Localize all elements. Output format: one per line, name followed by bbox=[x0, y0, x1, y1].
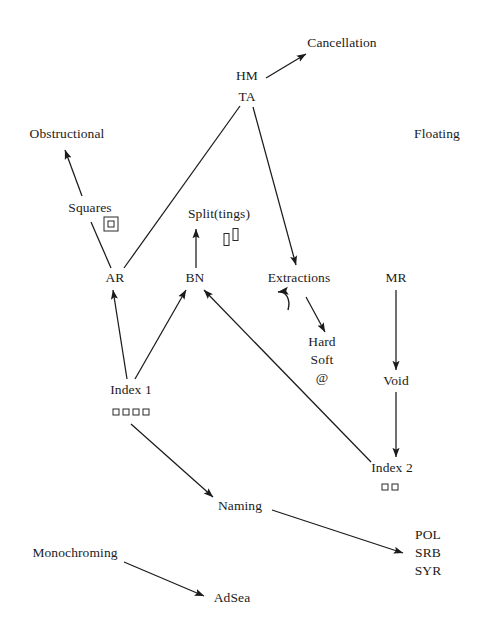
square-inner-icon bbox=[108, 221, 115, 228]
bar-icon bbox=[233, 228, 239, 241]
square-icon bbox=[113, 409, 120, 416]
square-icon bbox=[133, 409, 140, 416]
node-hard-soft-at[interactable]: HardSoft@ bbox=[308, 333, 335, 386]
diagram-canvas: Cancellation HM TA Obstructional Floatin… bbox=[0, 0, 484, 627]
node-hm[interactable]: HM bbox=[236, 67, 258, 85]
node-index1[interactable]: Index 1 bbox=[110, 381, 152, 399]
node-obstructional[interactable]: Obstructional bbox=[30, 125, 105, 143]
bar-pair-icon bbox=[224, 228, 239, 246]
node-label-line: @ bbox=[308, 369, 335, 387]
node-bn[interactable]: BN bbox=[186, 269, 205, 287]
edge-extractions-hardsoft bbox=[306, 297, 325, 332]
node-squares[interactable]: Squares bbox=[68, 199, 111, 217]
nested-square-icon bbox=[104, 217, 119, 232]
edge-index1-naming bbox=[131, 424, 213, 497]
square-icon bbox=[392, 484, 399, 491]
index1-squares-icon bbox=[113, 409, 150, 416]
node-naming[interactable]: Naming bbox=[218, 497, 262, 515]
edge-squares-obstructional bbox=[65, 150, 82, 196]
square-icon bbox=[143, 409, 150, 416]
square-icon bbox=[382, 484, 389, 491]
node-cancellation[interactable]: Cancellation bbox=[307, 34, 376, 52]
node-ta[interactable]: TA bbox=[238, 88, 255, 106]
node-index2[interactable]: Index 2 bbox=[371, 459, 413, 477]
node-void[interactable]: Void bbox=[383, 372, 409, 390]
node-label-line: POL bbox=[415, 526, 442, 544]
node-label-line: Soft bbox=[308, 351, 335, 369]
edge-ta-extractions bbox=[253, 107, 296, 265]
node-monochroming[interactable]: Monochroming bbox=[32, 544, 117, 562]
node-floating[interactable]: Floating bbox=[414, 125, 460, 143]
edge-index1-bn bbox=[135, 290, 186, 379]
edge-index2-bn bbox=[204, 290, 371, 462]
node-label-line: Hard bbox=[308, 333, 335, 351]
square-outer-icon bbox=[104, 217, 119, 232]
node-mr[interactable]: MR bbox=[385, 269, 406, 287]
edge-monochroming-adsea bbox=[124, 562, 204, 596]
node-ar[interactable]: AR bbox=[106, 269, 125, 287]
node-label-line: SYR bbox=[415, 562, 442, 580]
node-adsea[interactable]: AdSea bbox=[214, 589, 251, 607]
bar-icon bbox=[224, 233, 230, 246]
edge-hm-cancellation bbox=[266, 54, 306, 78]
index2-squares-icon bbox=[382, 484, 399, 491]
node-label-line: SRB bbox=[415, 544, 442, 562]
edge-extractions-self bbox=[278, 292, 289, 310]
edge-naming-codes bbox=[272, 510, 403, 553]
node-country-codes[interactable]: POLSRBSYR bbox=[415, 526, 442, 579]
edge-index1-ar bbox=[113, 290, 127, 379]
node-extractions[interactable]: Extractions bbox=[268, 269, 331, 287]
square-icon bbox=[123, 409, 130, 416]
node-splittings[interactable]: Split(tings) bbox=[188, 205, 250, 223]
